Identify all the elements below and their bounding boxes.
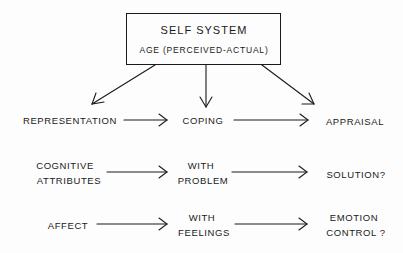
node-with-feelings-line1: WITH xyxy=(189,210,216,225)
arrow-coping-to-appraisal xyxy=(234,114,308,126)
node-affect: AFFECT xyxy=(48,218,89,233)
node-coping: COPING xyxy=(182,113,223,128)
arrow-affect-to-feelings xyxy=(97,218,167,230)
node-with-problem-line2: PROBLEM xyxy=(178,173,229,188)
node-with-problem-line1: WITH xyxy=(188,158,215,173)
diagram-canvas: SELF SYSTEM AGE (PERCEIVED-ACTUAL) REPRE… xyxy=(0,0,403,253)
arrow-root-to-representation xyxy=(92,65,155,104)
node-solution: SOLUTION? xyxy=(326,167,385,182)
node-cognitive-line2: ATTRIBUTES xyxy=(37,173,101,188)
node-emotion-line2: CONTROL ? xyxy=(326,225,385,240)
self-system-subtitle: AGE (PERCEIVED-ACTUAL) xyxy=(139,43,268,58)
arrow-representation-to-coping xyxy=(124,114,167,126)
arrow-feelings-to-emotion xyxy=(235,218,307,230)
self-system-title: SELF SYSTEM xyxy=(161,23,248,38)
arrow-root-to-appraisal xyxy=(262,65,314,104)
node-representation: REPRESENTATION xyxy=(23,113,117,128)
node-emotion-line1: EMOTION xyxy=(330,210,379,225)
arrow-cognitive-to-problem xyxy=(107,166,167,178)
arrow-root-to-coping xyxy=(200,65,212,107)
node-appraisal: APPRAISAL xyxy=(326,114,384,129)
node-cognitive-line1: COGNITIVE xyxy=(36,158,94,173)
node-with-feelings-line2: FEELINGS xyxy=(178,225,230,240)
arrow-problem-to-solution xyxy=(232,166,307,178)
